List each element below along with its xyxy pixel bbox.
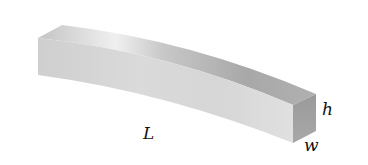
width-label: w <box>304 137 319 154</box>
height-label: h <box>322 101 333 118</box>
length-label: L <box>143 125 154 142</box>
beam-diagram: h L w <box>0 0 368 165</box>
